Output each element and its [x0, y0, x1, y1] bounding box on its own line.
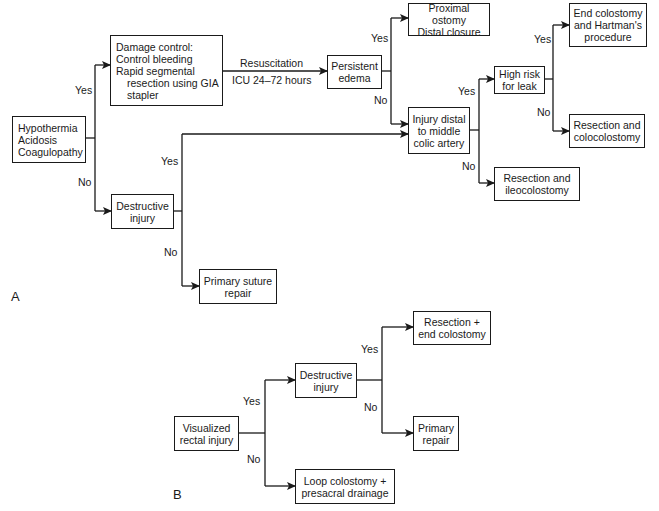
node-line: Coagulopathy: [18, 146, 83, 158]
node-text: Primary suture repair: [204, 275, 272, 299]
edge-label-edema-no: No: [374, 94, 387, 106]
edge-label-destructive-yes: Yes: [161, 155, 178, 167]
panel-label-b: B: [173, 487, 182, 502]
node-line: Rapid segmental: [116, 65, 219, 77]
node-high-risk-leak: High risk for leak: [494, 66, 545, 94]
node-text: Injury distal to middle colic artery: [412, 113, 465, 149]
edge-label-leak-no: No: [537, 106, 550, 118]
edge-label-visualized-yes: Yes: [243, 395, 260, 407]
node-line: Acidosis: [18, 134, 83, 146]
panel-label-a: A: [11, 289, 20, 304]
node-injury-distal-middle-colic: Injury distal to middle colic artery: [408, 107, 470, 154]
node-line: Control bleeding: [116, 53, 219, 65]
node-visualized-rectal-injury: Visualized rectal injury: [174, 416, 239, 451]
node-destructive-injury-b: Destructive injury: [295, 363, 357, 398]
node-destructive-injury-a: Destructive injury: [111, 194, 174, 229]
edge-label-destructive-b-no: No: [364, 401, 377, 413]
node-line: stapler: [116, 89, 219, 101]
node-text: Destructive injury: [300, 369, 353, 393]
edge-label-destructive-no: No: [164, 246, 177, 258]
node-resection-colocolostomy: Resection and colocolostomy: [569, 114, 645, 148]
edge-label-visualized-no: No: [247, 453, 260, 465]
edge-label-edema-yes: Yes: [371, 32, 388, 44]
node-line: resection using GIA: [116, 77, 219, 89]
node-resection-ileocolostomy: Resection and ileocolostomy: [494, 167, 580, 201]
edge-label-resuscitation: Resuscitation: [240, 57, 303, 69]
edge-label-distal-yes: Yes: [458, 85, 475, 97]
edge-label-leak-yes: Yes: [534, 33, 551, 45]
node-damage-control: Damage control: Control bleeding Rapid s…: [110, 35, 223, 106]
node-line: Hypothermia: [18, 122, 83, 134]
node-loop-colostomy-presacral-drainage: Loop colostomy + presacral drainage: [295, 469, 395, 504]
node-text: Resection and ileocolostomy: [503, 172, 570, 196]
node-persistent-edema: Persistent edema: [327, 55, 382, 89]
node-end-colostomy-hartmann: End colostomy and Hartman's procedure: [569, 3, 647, 47]
node-resection-end-colostomy: Resection + end colostomy: [413, 311, 491, 345]
edge-label-start-yes: Yes: [75, 84, 92, 96]
node-text: Persistent edema: [331, 60, 378, 84]
node-text: Proximal ostomy Distal closure: [412, 2, 486, 38]
edge-label-destructive-b-yes: Yes: [361, 343, 378, 355]
node-line: Damage control:: [116, 41, 219, 53]
node-proximal-ostomy: Proximal ostomy Distal closure: [408, 3, 490, 36]
edge-label-icu-hours: ICU 24–72 hours: [232, 74, 311, 86]
node-text: Resection + end colostomy: [418, 316, 486, 340]
node-text: High risk for leak: [499, 68, 540, 92]
edge-label-start-no: No: [78, 176, 91, 188]
node-text: Loop colostomy + presacral drainage: [302, 475, 389, 499]
edge-label-distal-no: No: [462, 160, 475, 172]
node-text: Destructive injury: [116, 200, 169, 224]
node-text: Primary repair: [418, 422, 454, 446]
node-text: End colostomy and Hartman's procedure: [574, 7, 643, 43]
node-primary-suture-repair: Primary suture repair: [199, 269, 277, 304]
node-text: Resection and colocolostomy: [573, 119, 640, 143]
node-primary-repair: Primary repair: [413, 416, 459, 451]
node-text: Visualized rectal injury: [180, 422, 234, 446]
node-hypothermia-acidosis-coagulopathy: Hypothermia Acidosis Coagulopathy: [12, 116, 86, 163]
